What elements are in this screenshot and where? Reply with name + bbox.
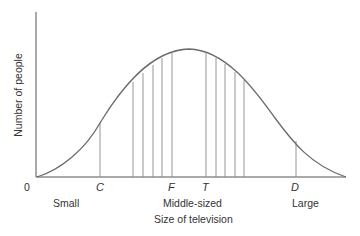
- tick-d: D: [291, 181, 299, 193]
- category-middle: Middle-sized: [163, 197, 222, 209]
- y-axis-label: Number of people: [12, 53, 24, 136]
- bell-curve: [37, 49, 346, 177]
- tick-f: F: [168, 181, 175, 193]
- tick-t: T: [202, 181, 209, 193]
- vertical-lines: [100, 53, 296, 177]
- category-large: Large: [292, 197, 319, 209]
- x-axis-label: Size of television: [154, 213, 233, 225]
- origin-label: 0: [24, 181, 30, 193]
- category-small: Small: [53, 197, 79, 209]
- tick-c: C: [96, 181, 104, 193]
